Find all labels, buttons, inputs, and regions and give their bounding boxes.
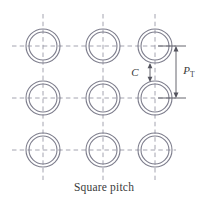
figure-caption: Square pitch (0, 181, 208, 193)
square-pitch-figure: C PT Square pitch (0, 0, 208, 204)
pitch-arrow-up-icon (174, 46, 179, 52)
pitch-dimension-group (158, 46, 186, 98)
pitch-arrow-down-icon (174, 93, 179, 99)
clearance-arrow-up-icon (148, 63, 153, 68)
clearance-dimension-group (148, 63, 153, 82)
clearance-label: C (131, 66, 139, 78)
centerlines-group (12, 14, 176, 180)
pitch-label: PT (182, 64, 195, 79)
pitch-label-subscript: T (190, 70, 195, 79)
tube-layout-diagram: C PT (0, 0, 208, 204)
